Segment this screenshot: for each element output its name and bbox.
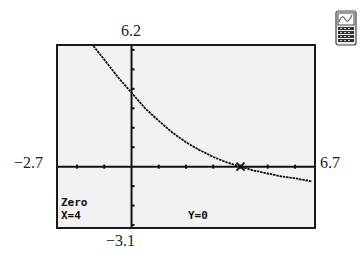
xmax-label: 6.7 bbox=[320, 155, 340, 171]
graphing-calculator-icon bbox=[335, 10, 357, 46]
graph-plot bbox=[58, 46, 314, 227]
y-readout: Y=0 bbox=[188, 210, 208, 221]
mode-label: Zero bbox=[61, 197, 88, 208]
ymax-label: 6.2 bbox=[121, 23, 141, 39]
ymin-label: −3.1 bbox=[106, 233, 135, 249]
function-curve bbox=[93, 46, 311, 181]
xmin-label: −2.7 bbox=[14, 155, 43, 171]
calculator-graph-screen: Zero X=4 Y=0 bbox=[56, 44, 316, 229]
x-readout: X=4 bbox=[61, 210, 81, 221]
